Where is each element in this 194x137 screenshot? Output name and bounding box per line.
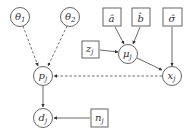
node-z-j: zj	[82, 41, 99, 58]
node-sigma-hat: σ̂	[163, 8, 182, 26]
edge-theta2-pj	[48, 26, 67, 66]
edge-ahat-muj	[115, 27, 124, 44]
edge-muj-xj	[137, 58, 162, 70]
svg-text:b̂: b̂	[138, 12, 144, 24]
graphical-model-diagram: θ1 θ2 â b̂ σ̂ zj μj xj pj dj	[0, 0, 194, 137]
svg-text:â: â	[109, 13, 115, 24]
svg-text:σ̂: σ̂	[169, 13, 177, 24]
node-p-j: pj	[34, 67, 53, 86]
edge-bhat-muj	[133, 27, 140, 44]
node-b-hat: b̂	[132, 8, 150, 26]
edge-zj-muj	[100, 50, 118, 52]
node-a-hat: â	[103, 8, 121, 26]
node-x-j: xj	[163, 67, 182, 86]
edge-theta1-pj	[23, 26, 38, 66]
node-theta2: θ2	[61, 8, 80, 27]
node-theta1: θ1	[11, 8, 30, 27]
node-n-j: nj	[91, 109, 108, 127]
node-d-j: dj	[34, 109, 53, 128]
node-mu-j: μj	[119, 45, 138, 64]
